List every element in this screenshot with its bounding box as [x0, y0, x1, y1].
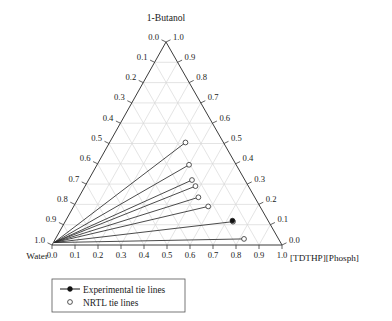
tick-mark-left — [105, 141, 110, 143]
nrtl-open-circle-marker — [206, 204, 211, 209]
tick-label-right: 1.0 — [173, 32, 184, 42]
tick-mark-right — [224, 141, 229, 143]
tick-mark-right — [178, 60, 183, 62]
tick-mark-right — [201, 101, 206, 103]
tick-label-left: 0.0 — [148, 32, 159, 42]
tick-label-bottom: 0.9 — [254, 250, 265, 260]
tick-mark-left — [139, 80, 144, 82]
vertex-label-water: Water — [26, 251, 48, 261]
bottom-axis-tick-labels: 0.00.10.20.30.40.50.60.70.80.91.0 — [47, 250, 288, 260]
tick-marks — [48, 40, 287, 249]
tick-mark-left — [93, 162, 98, 164]
tick-label-left: 0.3 — [114, 92, 125, 102]
tick-label-left: 0.5 — [91, 133, 102, 143]
nrtl-open-circle-marker — [190, 178, 195, 183]
tick-label-left: 0.9 — [46, 214, 57, 224]
tick-label-bottom: 0.4 — [139, 250, 150, 260]
tick-mark-left — [70, 202, 75, 204]
grid-line — [259, 225, 270, 245]
tick-mark-left — [48, 243, 53, 245]
tick-mark-right — [166, 40, 171, 42]
legend: Experimental tie lines NRTL tie lines — [52, 279, 185, 312]
tick-label-bottom: 0.7 — [208, 250, 219, 260]
tick-label-bottom: 0.3 — [116, 250, 127, 260]
tick-mark-right — [189, 80, 194, 82]
tick-mark-left — [59, 223, 64, 225]
nrtl-open-circle-marker — [193, 184, 198, 189]
tick-label-right: 0.4 — [243, 153, 254, 163]
vertex-label-phosphonium: [TDTHP][Phosph] — [290, 253, 359, 263]
tick-label-left: 0.8 — [57, 194, 68, 204]
nrtl-open-circle-marker — [242, 237, 247, 242]
tick-label-right: 0.7 — [208, 92, 219, 102]
tick-label-right: 0.0 — [289, 235, 300, 245]
legend-label-nrtl: NRTL tie lines — [83, 298, 139, 308]
nrtl-open-circle-marker — [183, 140, 188, 145]
right-axis-tick-labels: 1.00.90.80.70.60.50.40.30.20.10.0 — [173, 32, 300, 245]
legend-marker-open-circle-icon — [68, 300, 73, 305]
grid-lines — [63, 62, 270, 245]
tick-label-right: 0.5 — [231, 133, 242, 143]
tick-mark-right — [259, 202, 264, 204]
tick-mark-right — [270, 223, 275, 225]
tick-label-bottom: 0.1 — [70, 250, 81, 260]
tick-label-left: 0.6 — [80, 153, 91, 163]
tick-label-right: 0.1 — [277, 214, 288, 224]
nrtl-open-circle-marker — [196, 195, 201, 200]
tick-label-right: 0.6 — [219, 113, 230, 123]
tick-label-right: 0.9 — [185, 52, 196, 62]
tick-label-right: 0.2 — [266, 194, 277, 204]
tick-mark-right — [247, 182, 252, 184]
tick-label-bottom: 0.0 — [47, 250, 58, 260]
tick-label-right: 0.3 — [254, 174, 265, 184]
tick-label-bottom: 1.0 — [277, 250, 288, 260]
tick-label-bottom: 0.6 — [185, 250, 196, 260]
tick-mark-left — [127, 101, 132, 103]
ternary-plot-svg: 0.00.10.20.30.40.50.60.70.80.91.0 1.00.9… — [0, 0, 392, 321]
tick-mark-right — [236, 162, 241, 164]
tick-label-left: 0.7 — [68, 174, 79, 184]
tick-mark-left — [116, 121, 121, 123]
legend-marker-filled-circle-icon — [68, 287, 73, 292]
tick-label-bottom: 0.5 — [162, 250, 173, 260]
tick-label-bottom: 0.2 — [93, 250, 104, 260]
tie-line — [54, 180, 192, 243]
grid-line — [213, 184, 247, 245]
legend-label-experimental: Experimental tie lines — [83, 285, 166, 295]
tick-label-right: 0.8 — [196, 72, 207, 82]
tick-label-left: 0.4 — [103, 113, 114, 123]
tick-label-left: 0.1 — [137, 52, 148, 62]
tick-label-left: 1.0 — [34, 235, 45, 245]
tick-mark-left — [150, 60, 155, 62]
tick-mark-left — [82, 182, 87, 184]
page-title: 1-Butanol — [147, 12, 186, 23]
experimental-filled-circle-marker — [230, 218, 235, 223]
nrtl-open-circle-marker — [187, 162, 192, 167]
ternary-diagram-figure: 0.00.10.20.30.40.50.60.70.80.91.0 1.00.9… — [0, 0, 392, 321]
tick-mark-right — [212, 121, 217, 123]
tick-label-bottom: 0.8 — [231, 250, 242, 260]
tick-label-left: 0.2 — [125, 72, 136, 82]
left-axis-tick-labels: 0.00.10.20.30.40.50.60.70.80.91.0 — [34, 32, 159, 245]
tick-mark-left — [162, 40, 167, 42]
tick-mark-right — [282, 243, 287, 245]
